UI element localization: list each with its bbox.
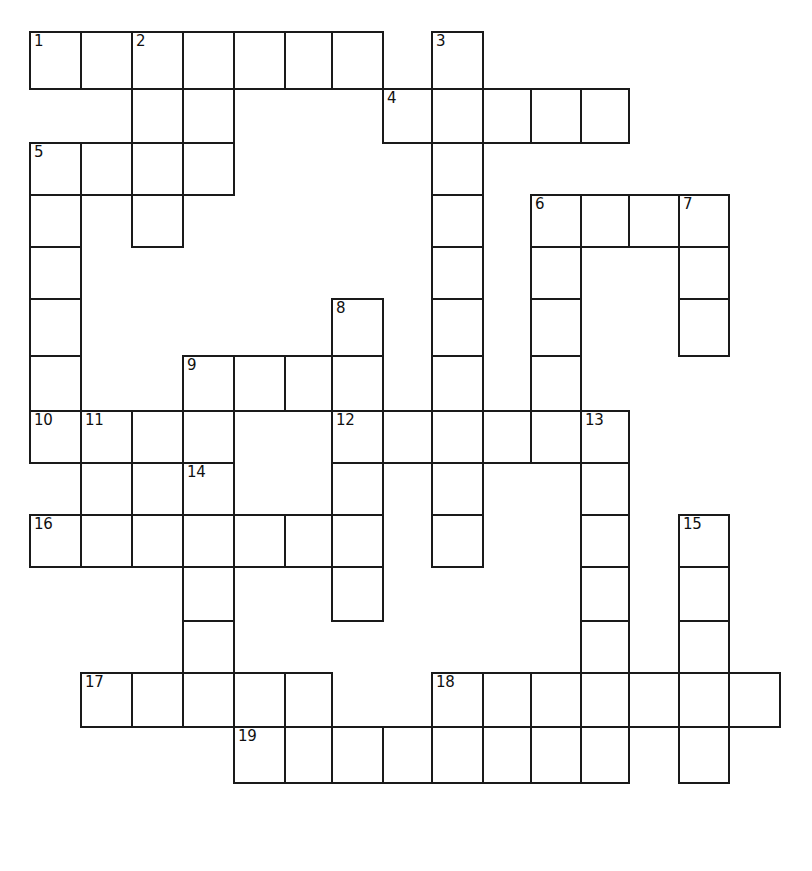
crossword-cell[interactable] — [331, 514, 384, 568]
crossword-cell[interactable] — [29, 246, 82, 300]
crossword-cell[interactable] — [678, 298, 730, 357]
crossword-cell[interactable] — [382, 726, 433, 784]
crossword-cell[interactable]: 6 — [530, 194, 582, 248]
crossword-cell[interactable] — [580, 566, 630, 622]
crossword-cell[interactable] — [530, 246, 582, 300]
crossword-cell[interactable]: 18 — [431, 672, 484, 728]
crossword-cell[interactable]: 10 — [29, 410, 82, 464]
crossword-cell[interactable] — [331, 462, 384, 516]
crossword-cell[interactable]: 4 — [382, 88, 433, 144]
crossword-cell[interactable] — [233, 672, 286, 728]
clue-number-3: 3 — [436, 33, 445, 50]
crossword-cell[interactable] — [530, 88, 582, 144]
crossword-cell[interactable] — [284, 355, 333, 412]
crossword-cell[interactable]: 17 — [80, 672, 133, 728]
crossword-cell[interactable] — [580, 672, 630, 728]
crossword-cell[interactable] — [182, 31, 235, 90]
crossword-cell[interactable] — [382, 410, 433, 464]
crossword-cell[interactable] — [331, 31, 384, 90]
crossword-cell[interactable] — [678, 672, 730, 728]
crossword-cell[interactable]: 12 — [331, 410, 384, 464]
crossword-cell[interactable] — [80, 462, 133, 516]
crossword-cell[interactable]: 8 — [331, 298, 384, 357]
crossword-cell[interactable] — [482, 672, 532, 728]
crossword-cell[interactable] — [431, 142, 484, 196]
crossword-cell[interactable] — [80, 31, 133, 90]
crossword-cell[interactable] — [284, 31, 333, 90]
crossword-cell[interactable] — [233, 514, 286, 568]
crossword-cell[interactable] — [80, 142, 133, 196]
crossword-cell[interactable] — [182, 514, 235, 568]
crossword-cell[interactable] — [678, 726, 730, 784]
crossword-cell[interactable] — [580, 620, 630, 674]
crossword-cell[interactable] — [431, 194, 484, 248]
crossword-cell[interactable] — [131, 142, 184, 196]
crossword-cell[interactable] — [284, 672, 333, 728]
crossword-cell[interactable] — [431, 514, 484, 568]
crossword-cell[interactable] — [431, 88, 484, 144]
crossword-cell[interactable]: 2 — [131, 31, 184, 90]
crossword-cell[interactable] — [580, 194, 630, 248]
crossword-cell[interactable] — [131, 514, 184, 568]
crossword-cell[interactable] — [431, 462, 484, 516]
crossword-cell[interactable] — [530, 410, 582, 464]
crossword-cell[interactable] — [331, 566, 384, 622]
crossword-cell[interactable] — [678, 620, 730, 674]
crossword-cell[interactable]: 7 — [678, 194, 730, 248]
crossword-cell[interactable] — [131, 194, 184, 248]
crossword-cell[interactable] — [431, 410, 484, 464]
crossword-cell[interactable] — [482, 726, 532, 784]
crossword-cell[interactable] — [182, 410, 235, 464]
crossword-cell[interactable]: 11 — [80, 410, 133, 464]
crossword-cell[interactable] — [530, 672, 582, 728]
crossword-cell[interactable]: 13 — [580, 410, 630, 464]
crossword-cell[interactable] — [678, 566, 730, 622]
crossword-cell[interactable] — [80, 514, 133, 568]
crossword-cell[interactable]: 3 — [431, 31, 484, 90]
crossword-cell[interactable]: 1 — [29, 31, 82, 90]
crossword-cell[interactable] — [131, 88, 184, 144]
crossword-cell[interactable] — [628, 194, 680, 248]
crossword-cell[interactable] — [29, 355, 82, 412]
crossword-cell[interactable] — [182, 142, 235, 196]
crossword-cell[interactable] — [678, 246, 730, 300]
crossword-cell[interactable]: 15 — [678, 514, 730, 568]
crossword-cell[interactable] — [580, 88, 630, 144]
crossword-cell[interactable] — [284, 514, 333, 568]
crossword-cell[interactable] — [580, 462, 630, 516]
crossword-cell[interactable] — [431, 355, 484, 412]
crossword-cell[interactable] — [29, 194, 82, 248]
crossword-cell[interactable] — [580, 726, 630, 784]
crossword-cell[interactable] — [233, 355, 286, 412]
crossword-cell[interactable]: 9 — [182, 355, 235, 412]
crossword-cell[interactable] — [331, 726, 384, 784]
crossword-cell[interactable] — [29, 298, 82, 357]
crossword-cell[interactable] — [131, 462, 184, 516]
crossword-cell[interactable] — [728, 672, 781, 728]
crossword-cell[interactable]: 14 — [182, 462, 235, 516]
crossword-cell[interactable]: 5 — [29, 142, 82, 196]
crossword-cell[interactable] — [331, 355, 384, 412]
crossword-cell[interactable] — [530, 355, 582, 412]
crossword-cell[interactable] — [131, 410, 184, 464]
crossword-cell[interactable] — [628, 672, 680, 728]
crossword-cell[interactable]: 19 — [233, 726, 286, 784]
clue-number-16: 16 — [34, 516, 53, 533]
crossword-cell[interactable] — [580, 514, 630, 568]
crossword-cell[interactable] — [182, 88, 235, 144]
crossword-cell[interactable] — [431, 726, 484, 784]
crossword-cell[interactable] — [431, 298, 484, 357]
crossword-cell[interactable] — [182, 566, 235, 622]
crossword-cell[interactable] — [431, 246, 484, 300]
crossword-cell[interactable] — [182, 672, 235, 728]
crossword-cell[interactable] — [482, 88, 532, 144]
crossword-cell[interactable]: 16 — [29, 514, 82, 568]
crossword-grid[interactable]: 12345678910111213141615171819 — [0, 0, 812, 871]
crossword-cell[interactable] — [284, 726, 333, 784]
crossword-cell[interactable] — [530, 726, 582, 784]
crossword-cell[interactable] — [131, 672, 184, 728]
crossword-cell[interactable] — [233, 31, 286, 90]
crossword-cell[interactable] — [182, 620, 235, 674]
crossword-cell[interactable] — [530, 298, 582, 357]
crossword-cell[interactable] — [482, 410, 532, 464]
